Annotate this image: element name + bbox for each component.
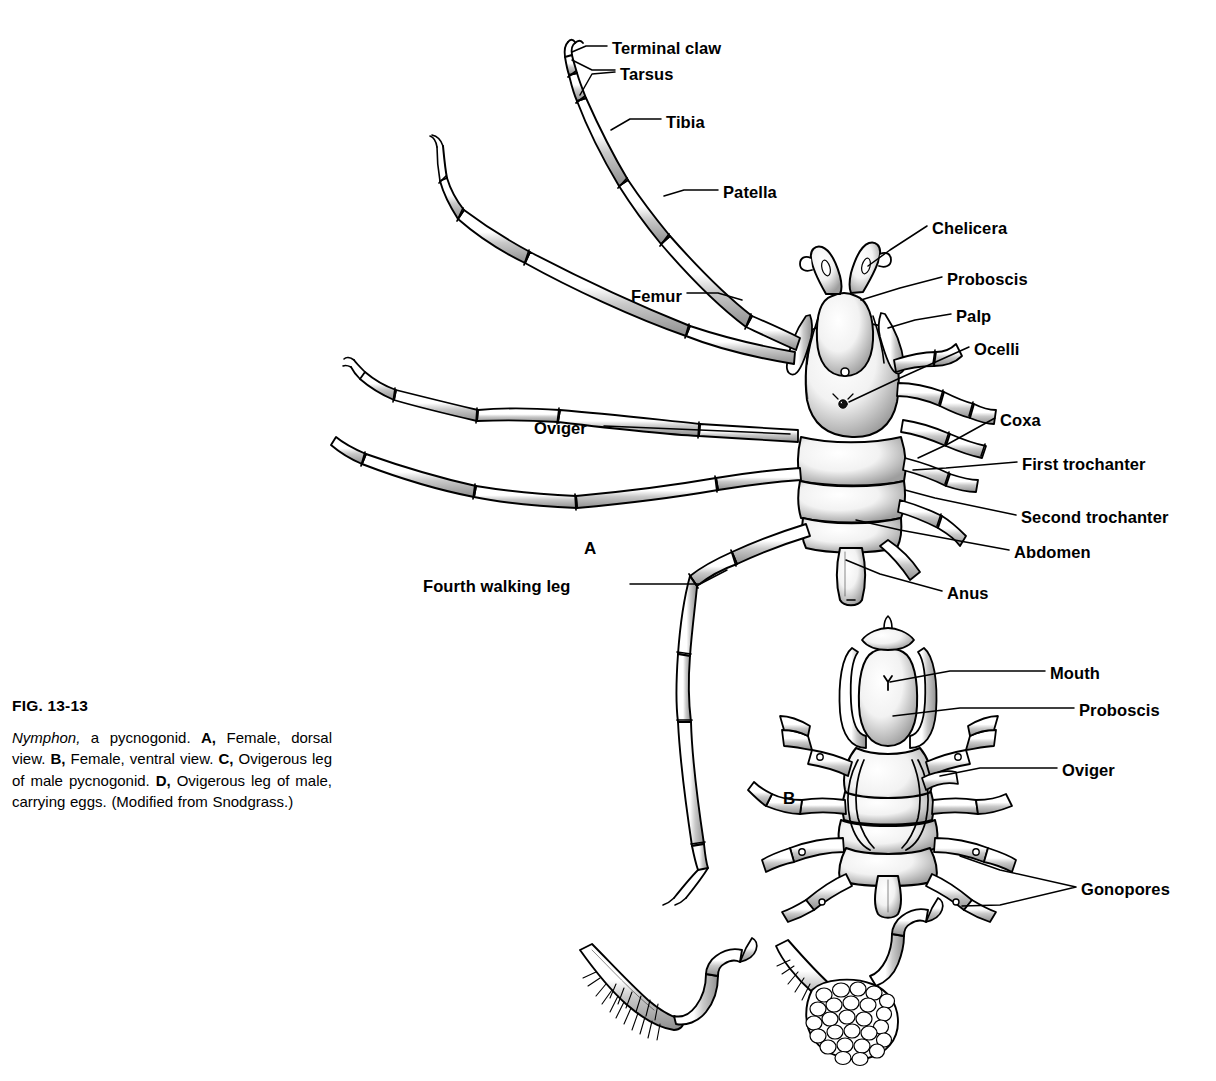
legs-left-b <box>748 716 852 922</box>
callout-patella-label: Patella <box>723 184 777 201</box>
callout-femur-label: Femur <box>631 288 682 305</box>
subfigure-c-drawing <box>580 938 757 1040</box>
callout-first_trochanter-label: First trochanter <box>1022 456 1146 473</box>
callout-proboscis-label: Proboscis <box>947 271 1028 288</box>
callout-tibia-label: Tibia <box>666 114 705 131</box>
caption-fragment: Nymphon, <box>12 729 80 746</box>
callout-fourth_walking_leg-label: Fourth walking leg <box>423 578 571 595</box>
callout-anus-label: Anus <box>947 585 989 602</box>
chelicerae-a <box>800 243 891 294</box>
figure-number: FIG. 13-13 <box>12 697 332 714</box>
legs-right-b <box>926 716 1016 922</box>
leg-lower-left-a <box>331 437 801 510</box>
callout-tarsus-label: Tarsus <box>620 66 673 83</box>
caption-fragment: C, <box>218 750 233 767</box>
figure-caption-block: FIG. 13-13 Nymphon, a pycnogonid. A, Fem… <box>12 697 332 812</box>
subfigure-d-drawing <box>776 898 943 1066</box>
callout-coxa-label: Coxa <box>1000 412 1041 429</box>
callout-gonopores-label: Gonopores <box>1081 881 1170 898</box>
callout-second_trochanter-label: Second trochanter <box>1021 509 1168 526</box>
caption-fragment: Female, ventral view. <box>65 750 218 767</box>
caption-fragment: D, <box>156 772 171 789</box>
panel-letter-b: B <box>783 790 795 807</box>
caption-fragment: A, <box>201 729 216 746</box>
figure-page: FIG. 13-13 Nymphon, a pycnogonid. A, Fem… <box>0 0 1216 1081</box>
callout-oviger_b-label: Oviger <box>1062 762 1115 779</box>
callout-chelicera-label: Chelicera <box>932 220 1007 237</box>
egg-mass <box>806 980 898 1066</box>
pycnogonid-illustration <box>0 0 1216 1081</box>
figure-caption-text: Nymphon, a pycnogonid. A, Female, dorsal… <box>12 727 332 812</box>
callout-palp-label: Palp <box>956 308 991 325</box>
callout-mouth-label: Mouth <box>1050 665 1100 682</box>
callout-abdomen-label: Abdomen <box>1014 544 1091 561</box>
panel-b-drawing <box>748 616 1076 922</box>
caption-fragment: B, <box>50 750 65 767</box>
callout-oviger-label: Oviger <box>534 420 587 437</box>
panel-letter-a: A <box>584 540 596 557</box>
callout-terminal_claw-label: Terminal claw <box>612 40 721 57</box>
callout-ocelli-label: Ocelli <box>974 341 1020 358</box>
callout-proboscis_b-label: Proboscis <box>1079 702 1160 719</box>
caption-fragment: a pycnogonid. <box>80 729 201 746</box>
